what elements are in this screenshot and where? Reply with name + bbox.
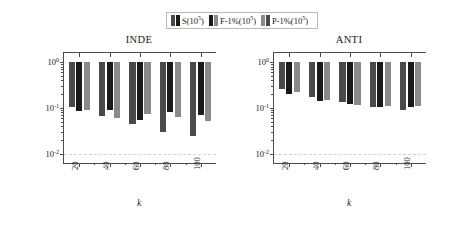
x-axis-title-inde: k bbox=[63, 198, 215, 208]
bar bbox=[408, 62, 414, 107]
y-tick-minor bbox=[61, 122, 64, 123]
bar bbox=[76, 62, 82, 110]
bar bbox=[286, 62, 292, 94]
y-tick-minor bbox=[61, 118, 64, 119]
y-tick-minor bbox=[271, 132, 274, 133]
x-tick-label-80: 80 bbox=[371, 162, 381, 171]
bar bbox=[144, 62, 150, 114]
y-tick-major-1 bbox=[270, 108, 274, 109]
bar bbox=[354, 62, 360, 105]
bar bbox=[205, 62, 211, 121]
y-tick-minor bbox=[61, 110, 64, 111]
y-tick-minor bbox=[61, 126, 64, 127]
x-tick-top-1 bbox=[110, 53, 111, 57]
y-tick-label-0: 100 bbox=[258, 57, 270, 68]
y-tick-minor bbox=[271, 69, 274, 70]
bar bbox=[129, 62, 135, 124]
bar bbox=[385, 62, 391, 106]
y-tick-major-0 bbox=[60, 62, 64, 63]
legend-swatch-icon-2a bbox=[261, 15, 265, 26]
y-tick-minor bbox=[61, 76, 64, 77]
y-tick-label-2: 10-2 bbox=[256, 148, 270, 159]
x-tick-top-3 bbox=[380, 53, 381, 57]
y-tick-minor bbox=[61, 80, 64, 81]
legend-entry-2[interactable]: P-1%(105) bbox=[261, 13, 313, 28]
bar bbox=[339, 62, 345, 102]
bar bbox=[370, 62, 376, 107]
bar bbox=[167, 62, 173, 112]
panel-anti: ANTI 10010-110-220406080100 k bbox=[273, 52, 426, 163]
y-tick-minor bbox=[61, 94, 64, 95]
x-tick-top-2 bbox=[350, 53, 351, 57]
x-tick-label-60: 60 bbox=[341, 162, 351, 171]
y-tick-minor bbox=[271, 80, 274, 81]
bar bbox=[137, 62, 143, 119]
y-tick-minor bbox=[271, 118, 274, 119]
y-tick-minor bbox=[271, 115, 274, 116]
chart-legend: S(105)F-1%(105)P-1%(105) bbox=[166, 12, 318, 29]
plot-area-inde: 10010-110-220406080100 bbox=[63, 52, 216, 163]
x-tick-minor bbox=[365, 163, 366, 165]
x-tick-minor bbox=[396, 163, 397, 165]
panel-title-anti: ANTI bbox=[273, 34, 425, 45]
y-tick-minor bbox=[61, 140, 64, 141]
bar bbox=[190, 62, 196, 135]
y-tick-minor bbox=[61, 72, 64, 73]
legend-label-2: P-1%(105) bbox=[272, 15, 308, 25]
legend-entry-1[interactable]: F-1%(105) bbox=[209, 13, 261, 28]
legend-swatch-icon-1b bbox=[214, 15, 218, 26]
y-tick-minor bbox=[61, 69, 64, 70]
bar bbox=[415, 62, 421, 106]
x-tick-top-0 bbox=[289, 53, 290, 57]
y-tick-minor bbox=[61, 67, 64, 68]
y-tick-minor bbox=[271, 126, 274, 127]
legend-entry-0[interactable]: S(105) bbox=[171, 13, 209, 28]
bar bbox=[69, 62, 75, 107]
y-tick-minor bbox=[61, 115, 64, 116]
y-tick-minor bbox=[271, 76, 274, 77]
y-tick-label-1: 10-1 bbox=[46, 103, 60, 114]
y-tick-minor bbox=[61, 132, 64, 133]
y-tick-minor bbox=[271, 86, 274, 87]
y-tick-major-1 bbox=[60, 108, 64, 109]
x-tick-minor bbox=[335, 163, 336, 165]
x-tick-label-100: 100 bbox=[192, 157, 202, 170]
y-tick-minor bbox=[271, 94, 274, 95]
bar bbox=[84, 62, 90, 110]
bar bbox=[279, 62, 285, 89]
x-tick-label-80: 80 bbox=[161, 162, 171, 171]
bar bbox=[347, 62, 353, 104]
x-tick-top-4 bbox=[201, 53, 202, 57]
plot-area-anti: 10010-110-220406080100 bbox=[273, 52, 426, 163]
x-tick-top-3 bbox=[170, 53, 171, 57]
figure-root: S(105)F-1%(105)P-1%(105) INDE regret rat… bbox=[0, 0, 464, 232]
legend-swatch-icon-0b bbox=[176, 15, 180, 26]
x-tick-label-40: 40 bbox=[311, 162, 321, 171]
y-tick-minor bbox=[271, 112, 274, 113]
x-tick-top-0 bbox=[79, 53, 80, 57]
x-tick-label-40: 40 bbox=[101, 162, 111, 171]
bar bbox=[317, 62, 323, 101]
panel-inde: INDE regret ratio 10010-110-220406080100… bbox=[63, 52, 216, 163]
x-tick-label-60: 60 bbox=[131, 162, 141, 171]
bar bbox=[198, 62, 204, 115]
x-tick-minor bbox=[186, 163, 187, 165]
bar bbox=[377, 62, 383, 107]
y-tick-major-2 bbox=[60, 154, 64, 155]
y-tick-minor bbox=[271, 64, 274, 65]
x-tick-label-100: 100 bbox=[402, 157, 412, 170]
bar bbox=[324, 62, 330, 100]
y-tick-minor bbox=[61, 64, 64, 65]
bar bbox=[175, 62, 181, 117]
bar bbox=[99, 62, 105, 116]
y-tick-label-1: 10-1 bbox=[256, 103, 270, 114]
bar bbox=[309, 62, 315, 97]
y-tick-minor bbox=[271, 67, 274, 68]
y-tick-label-2: 10-2 bbox=[46, 148, 60, 159]
gridline-1e-2 bbox=[64, 154, 216, 155]
y-tick-minor bbox=[271, 140, 274, 141]
x-tick-minor bbox=[155, 163, 156, 165]
bar bbox=[160, 62, 166, 132]
x-axis-title-anti: k bbox=[273, 198, 425, 208]
y-tick-minor bbox=[61, 86, 64, 87]
